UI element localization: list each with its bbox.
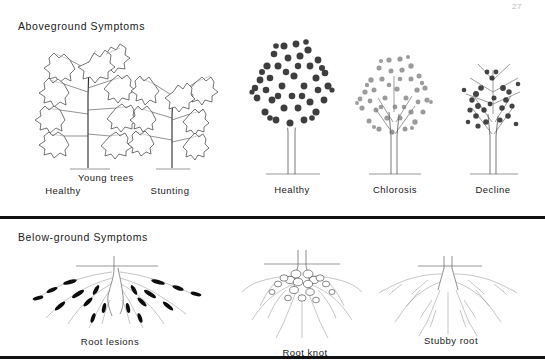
- caption-mature-decline: Decline: [463, 184, 523, 195]
- caption-root-lesions: Root lesions: [55, 336, 165, 347]
- illustration-mature-healthy: [240, 28, 344, 180]
- page-number: 27: [512, 2, 522, 11]
- heading-belowground: Below-ground Symptoms: [18, 231, 148, 243]
- illustration-root-knot: [240, 250, 364, 342]
- panel-divider-rule: [0, 216, 545, 219]
- caption-mature-healthy: Healthy: [262, 184, 322, 195]
- caption-stubby-root: Stubby root: [406, 335, 496, 346]
- caption-young-healthy: Healthy: [33, 185, 93, 196]
- caption-young-stunting: Stunting: [140, 185, 200, 196]
- illustration-root-lesions: [18, 256, 214, 340]
- illustration-stubby-root: [372, 256, 524, 336]
- figure-root: 27 Aboveground Symptoms: [0, 0, 545, 364]
- illustration-mature-decline: [448, 48, 538, 180]
- illustration-young-healthy: [36, 36, 142, 174]
- group-label-young-trees: Young trees: [78, 172, 134, 183]
- heading-aboveground: Aboveground Symptoms: [18, 20, 145, 32]
- illustration-mature-chlorosis: [345, 42, 443, 180]
- caption-mature-chlorosis: Chlorosis: [360, 184, 430, 195]
- illustration-young-stunting: [128, 56, 216, 174]
- bottom-rule: [0, 356, 545, 359]
